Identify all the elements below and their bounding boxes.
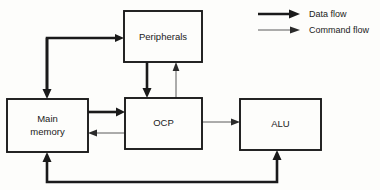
block-peripherals[interactable]: Peripherals <box>124 11 202 62</box>
legend-data-flow-arrowhead <box>289 10 300 19</box>
arrowhead-right <box>116 108 125 117</box>
connection-main-memory-to-peripherals <box>43 34 125 99</box>
block-diagram: Peripherals Main memory OCP ALU Data flo… <box>0 0 380 190</box>
connection-main-memory-to-ocp <box>88 108 125 117</box>
arrowhead-right <box>115 34 124 42</box>
arrowhead-down <box>143 88 152 98</box>
block-main-memory-label-line2: memory <box>30 126 65 137</box>
connection-ocp-to-alu <box>202 119 240 126</box>
arrowhead-up-main-memory <box>43 152 52 162</box>
arrowhead-left <box>88 130 97 137</box>
legend: Data flow Command flow <box>258 9 370 35</box>
connection-alu-to-main-memory <box>43 150 282 182</box>
connection-ocp-to-peripherals <box>173 62 180 98</box>
arrowhead-up <box>173 62 180 71</box>
legend-data-flow-label: Data flow <box>309 9 347 19</box>
legend-item-command-flow: Command flow <box>258 25 370 35</box>
arrowhead-up-alu <box>273 150 282 160</box>
block-alu[interactable]: ALU <box>240 99 321 150</box>
arrowhead-right <box>231 119 240 126</box>
connection-ocp-to-main-memory <box>88 130 125 137</box>
connection-path <box>47 156 277 182</box>
block-ocp[interactable]: OCP <box>125 98 202 149</box>
block-ocp-label: OCP <box>153 117 174 128</box>
legend-command-flow-label: Command flow <box>309 25 370 35</box>
connection-peripherals-to-ocp <box>143 62 152 98</box>
block-main-memory-label-line1: Main <box>37 113 58 124</box>
block-peripherals-label: Peripherals <box>139 31 187 42</box>
block-main-memory[interactable]: Main memory <box>7 99 88 152</box>
diagram-canvas: Peripherals Main memory OCP ALU Data flo… <box>0 0 380 190</box>
block-alu-label: ALU <box>271 118 290 129</box>
legend-item-data-flow: Data flow <box>258 9 347 19</box>
legend-command-flow-arrowhead <box>290 26 300 33</box>
arrowhead-down <box>43 89 52 99</box>
connection-path <box>47 38 118 93</box>
